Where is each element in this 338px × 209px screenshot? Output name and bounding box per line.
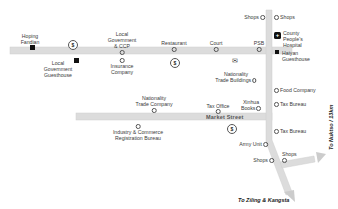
label-food-company: Food Company bbox=[274, 87, 316, 93]
hotel-icon bbox=[74, 58, 79, 63]
label-xinhua-books: Xinhua Books bbox=[241, 99, 261, 111]
label-nationality-trade-buildings: Nationality Trade Buildings bbox=[215, 71, 256, 83]
bank-icon: $ bbox=[227, 124, 237, 134]
nationality-trade-company-marker bbox=[152, 107, 157, 113]
label-hoping-fandian: Hoping Fandian bbox=[21, 33, 40, 45]
town-map: Hoping Fandian $ Local Government Guesth… bbox=[0, 0, 338, 209]
psb-marker bbox=[257, 46, 262, 52]
destination-east: To Nuktso / 13km bbox=[328, 105, 334, 150]
hotel-icon bbox=[30, 45, 35, 50]
post-office-icon: ✉ bbox=[232, 58, 238, 64]
label-shops-top-right: Shops bbox=[274, 14, 295, 20]
label-haiyan-guesthouse: Haiyan Guesthouse bbox=[274, 50, 310, 62]
label-local-government-ccp: Local Government & CCP bbox=[108, 31, 137, 49]
bank-icon: $ bbox=[170, 58, 180, 68]
restaurant-marker bbox=[172, 46, 177, 52]
label-local-government-guesthouse: Local Government Guesthouse bbox=[44, 60, 73, 78]
ccp-marker bbox=[120, 49, 125, 55]
label-shops-bottom-left: Shops bbox=[253, 157, 274, 163]
hospital-icon: + bbox=[274, 32, 281, 39]
destination-south: To Ziling & Kangsta bbox=[238, 197, 289, 203]
label-shops-top-left: Shops bbox=[244, 14, 265, 20]
label-shops-bottom-right: Shops bbox=[282, 151, 297, 163]
label-nationality-trade-company: Nationality Trade Company bbox=[135, 95, 172, 107]
bank-icon: $ bbox=[68, 40, 78, 50]
street-label-market-street: Market Street bbox=[206, 114, 243, 120]
label-tax-bureau-2: Tax Bureau bbox=[274, 128, 306, 134]
label-army-unit: Army Unit bbox=[239, 141, 268, 147]
main-road bbox=[10, 47, 292, 54]
label-industry-commerce: Industry & Commerce Registration Bureau bbox=[113, 129, 163, 141]
label-county-hospital: County People's Hospital bbox=[283, 30, 303, 48]
label-tax-bureau-1: Tax Bureau bbox=[274, 101, 306, 107]
arrow-east-icon bbox=[316, 152, 326, 163]
court-marker bbox=[214, 46, 219, 52]
label-insurance-company: Insurance Company bbox=[111, 63, 134, 75]
